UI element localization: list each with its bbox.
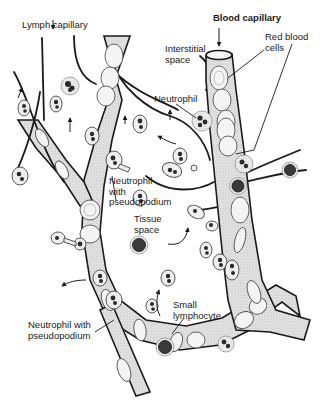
neutrophil-cell [18,100,30,116]
neutrophil-cell [93,270,107,286]
label-small-lymphocyte: Small lymphocyte [173,300,221,321]
neutrophil-with-pseudopodium [106,151,130,172]
lymphocyte-cell [282,162,298,178]
neutrophil-cell [50,96,62,112]
neutrophil-cell [146,299,158,313]
neutrophil-cell [192,111,212,131]
neutrophil-cell [133,115,147,133]
neutrophil-cell [61,77,79,95]
label-neutrophil: Neutrophil [154,94,197,105]
neutrophil-cell [12,167,28,185]
label-blood-capillary: Blood capillary [213,13,281,24]
label-interstitial-space: Interstitial space [165,44,206,65]
label-neutrophil-with-pseudopodium-center: Neutrophil with pseudopodium [109,176,171,208]
neutrophil-with-pseudopodium [185,202,218,231]
neutrophil-cell [161,270,175,286]
neutrophil-cell [218,336,234,352]
neutrophil-cell [235,155,253,173]
neutrophil-cell [85,127,99,145]
lymphocyte-cell [156,338,174,356]
neutrophil-with-pseudopodium [106,291,122,309]
neutrophil-cell [200,242,212,258]
neutrophil-cell [225,260,239,280]
label-neutrophil-with-pseudopodium-lower: Neutrophil with pseudopodium [28,320,91,341]
label-lymph-capillary: Lymph capillary [22,20,88,31]
neutrophil-cell [173,148,187,164]
label-tissue-space: Tissue space [134,214,162,235]
label-red-blood-cells: Red blood cells [265,32,308,53]
lymphocyte-cell [130,236,148,254]
lymphocyte-cell [230,178,247,195]
